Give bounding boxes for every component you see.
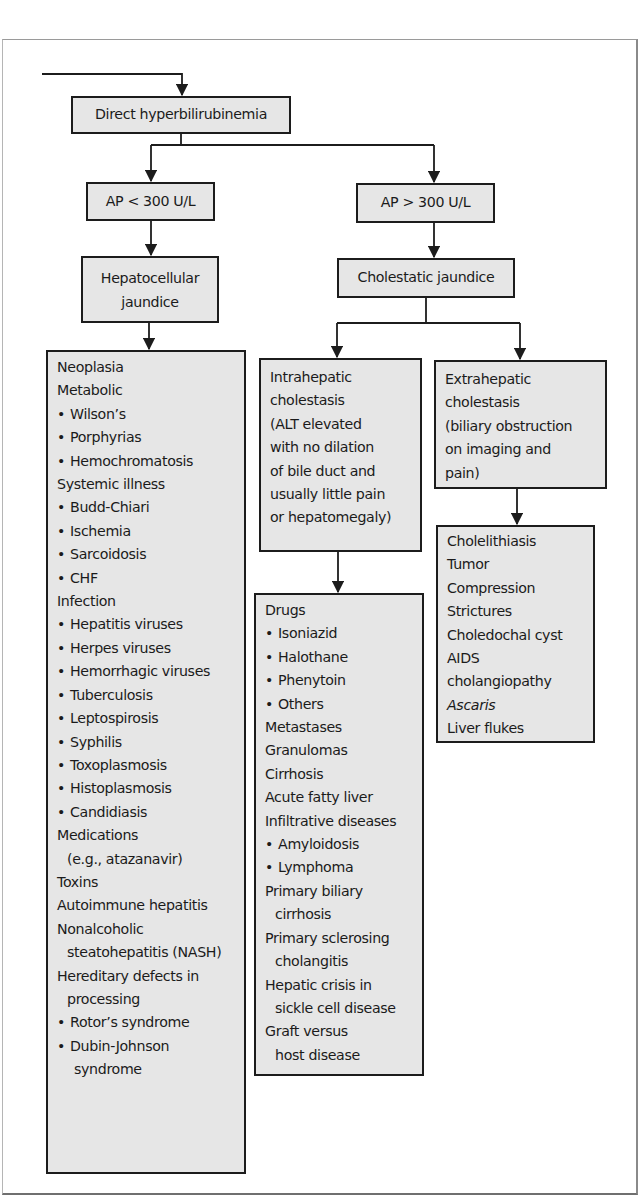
node-label-line: Intrahepatic [270,366,420,389]
cause-item: Hepatitis viruses [57,613,244,636]
cause-item: syndrome [57,1058,244,1081]
cause-item: host disease [265,1044,422,1067]
cause-item: Ascaris [447,694,593,717]
cause-item: Hepatic crisis in [265,974,422,997]
cause-item: Wilson’s [57,403,244,426]
result-node-cholestatic-jaundice: Cholestatic jaundice [337,258,515,298]
cause-item: Hemochromatosis [57,450,244,473]
cause-item: Histoplasmosis [57,777,244,800]
intrahepatic-causes-list: DrugsIsoniazidHalothanePhenytoinOthersMe… [254,593,424,1076]
node-label-line: cholestasis [445,391,605,414]
cause-item: sickle cell disease [265,997,422,1020]
cause-item: Isoniazid [265,622,422,645]
cause-item: Nonalcoholic [57,918,244,941]
cause-item: Primary sclerosing [265,927,422,950]
cause-item: Rotor’s syndrome [57,1011,244,1034]
node-label-line: or hepatomegaly) [270,506,420,529]
node-label-line: with no dilation [270,436,420,459]
cause-item: Phenytoin [265,669,422,692]
cause-item: Herpes viruses [57,637,244,660]
cause-item: Porphyrias [57,426,244,449]
cause-item: Primary biliary [265,880,422,903]
cause-item: Hereditary defects in [57,965,244,988]
condition-label: AP > 300 U/L [381,191,471,214]
cause-item: Budd-Chiari [57,496,244,519]
cause-item: Amyloidosis [265,833,422,856]
hepatocellular-causes-list: NeoplasiaMetabolicWilson’sPorphyriasHemo… [46,350,246,1174]
intrahepatic-cholestasis-node: Intrahepaticcholestasis(ALT elevatedwith… [259,358,422,552]
condition-node-ap-high: AP > 300 U/L [356,183,495,223]
root-node-label: Direct hyperbilirubinemia [95,103,267,126]
cause-item: Candidiasis [57,801,244,824]
result-label-line: jaundice [121,290,178,314]
node-label-line: pain) [445,462,605,485]
cause-item: Compression [447,577,593,600]
root-node-direct-hyperbilirubinemia: Direct hyperbilirubinemia [71,96,291,134]
extrahepatic-causes-list: CholelithiasisTumorCompressionStrictures… [436,525,595,743]
cause-item: Choledochal cyst [447,624,593,647]
cause-item: Cirrhosis [265,763,422,786]
cause-item: Graft versus [265,1020,422,1043]
cause-item: Toxins [57,871,244,894]
cause-item: Leptospirosis [57,707,244,730]
node-label-line: usually little pain [270,483,420,506]
cause-item: Ischemia [57,520,244,543]
cause-item: Syphilis [57,731,244,754]
cause-item: Liver flukes [447,717,593,740]
node-label-line: Extrahepatic [445,368,605,391]
cause-item: Infection [57,590,244,613]
cause-item: Sarcoidosis [57,543,244,566]
cause-item: Metabolic [57,379,244,402]
cause-item: Autoimmune hepatitis [57,894,244,917]
condition-label: AP < 300 U/L [106,190,196,213]
cause-item: Dubin-Johnson [57,1035,244,1058]
result-label-line: Hepatocellular [101,266,199,290]
node-label-line: (biliary obstruction [445,415,605,438]
node-label-line: of bile duct and [270,460,420,483]
cause-item: Others [265,693,422,716]
cause-item: Infiltrative diseases [265,810,422,833]
cause-item: Halothane [265,646,422,669]
cause-item: (e.g., atazanavir) [57,848,244,871]
cause-item: Neoplasia [57,356,244,379]
cause-item: steatohepatitis (NASH) [57,941,244,964]
cause-item: cholangiopathy [447,670,593,693]
cause-item: Cholelithiasis [447,530,593,553]
condition-node-ap-low: AP < 300 U/L [86,182,215,221]
cause-item: Systemic illness [57,473,244,496]
cause-item: Lymphoma [265,856,422,879]
cause-item: Toxoplasmosis [57,754,244,777]
cause-item: Hemorrhagic viruses [57,660,244,683]
cause-item: processing [57,988,244,1011]
cause-item: Strictures [447,600,593,623]
extrahepatic-cholestasis-node: Extrahepaticcholestasis(biliary obstruct… [434,360,607,489]
result-node-hepatocellular-jaundice: Hepatocellular jaundice [81,256,219,323]
cause-item: Acute fatty liver [265,786,422,809]
cause-item: cirrhosis [265,903,422,926]
node-label-line: (ALT elevated [270,413,420,436]
cause-item: Drugs [265,599,422,622]
cause-item: Metastases [265,716,422,739]
cause-item: AIDS [447,647,593,670]
node-label-line: on imaging and [445,438,605,461]
result-label: Cholestatic jaundice [358,266,495,289]
cause-item: Tumor [447,553,593,576]
cause-item: Medications [57,824,244,847]
cause-item: Granulomas [265,739,422,762]
cause-item: CHF [57,567,244,590]
node-label-line: cholestasis [270,389,420,412]
cause-item: cholangitis [265,950,422,973]
cause-item: Tuberculosis [57,684,244,707]
